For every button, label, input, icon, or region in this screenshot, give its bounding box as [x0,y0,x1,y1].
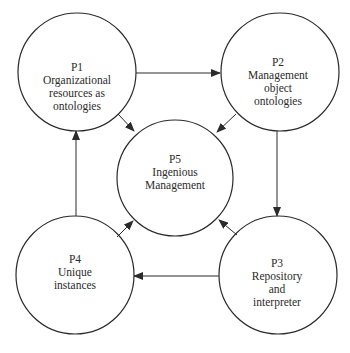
node-p3-label: P3 Repository and interpreter [252,257,302,309]
node-p1-line: resources as [43,87,111,100]
edge-p2-to-p5-arrow [217,114,236,132]
node-p2-id: P2 [248,56,308,69]
node-p2-line: Management [248,69,308,82]
node-p4-label: P4 Unique instances [54,253,96,292]
node-p1-line: Organizational [43,74,111,87]
node-p1-label: P1 Organizational resources as ontologie… [43,61,111,113]
node-p3-line: Repository [252,270,302,283]
node-p3-id: P3 [252,257,302,270]
node-p1-line: ontologies [43,100,111,113]
node-p1-id: P1 [43,61,111,74]
node-p5-line: Management [145,179,205,192]
node-p4-id: P4 [54,253,96,266]
node-p2-label: P2 Management object ontologies [248,56,308,108]
node-p4-line: instances [54,279,96,292]
edge-p3-to-p5-arrow [219,220,237,235]
node-p5-id: P5 [145,153,205,166]
node-p5-label: P5 Ingenious Management [145,153,205,192]
node-p3-line: and [252,283,302,296]
edge-p4-to-p5-arrow [117,221,133,237]
node-p2-line: object [248,82,308,95]
edge-p1-to-p5-arrow [118,114,134,131]
node-p3-line: interpreter [252,296,302,309]
node-p2-line: ontologies [248,95,308,108]
node-p5-line: Ingenious [145,166,205,179]
node-p4-line: Unique [54,266,96,279]
